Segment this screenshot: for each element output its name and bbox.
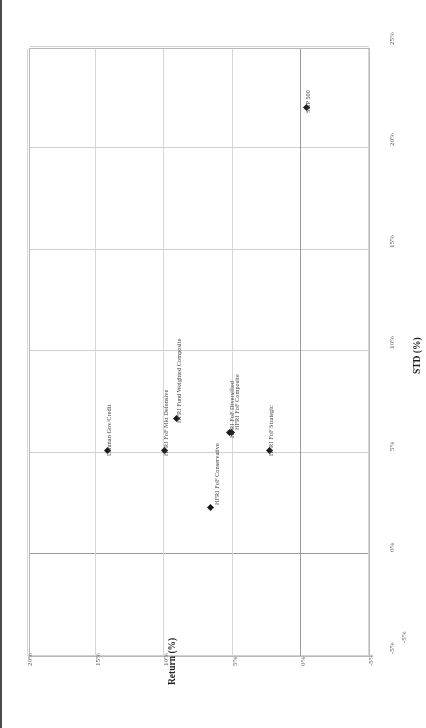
data-point-label: HFRI FoF Composite: [234, 374, 240, 430]
std-tick-label: 0%: [388, 543, 396, 552]
data-point-label: HFRI FoF Conservative: [214, 443, 220, 505]
gridline-return: [368, 49, 369, 656]
return-tick-label: -5%: [367, 654, 375, 666]
return-tick-label: 0%: [299, 657, 307, 666]
gridline-std: [30, 655, 369, 656]
std-tick-label: 10%: [388, 337, 396, 350]
return-tick-label: 5%: [231, 657, 239, 666]
std-tick-label-corner: -5%: [400, 631, 408, 643]
return-tick-label: 20%: [26, 653, 34, 666]
return-axis-title: Return (%): [168, 638, 178, 685]
gridline-std: [30, 452, 369, 453]
std-tick-label: 5%: [388, 442, 396, 451]
std-tick-label: 25%: [388, 32, 396, 45]
gridline-std: [30, 351, 369, 352]
data-point-label: HFRI FoF Mkt Defensive: [163, 390, 169, 456]
plot-area: [29, 48, 370, 657]
data-point-marker: [207, 504, 214, 511]
data-point-label: S&P 500: [305, 90, 311, 113]
return-tick-label: 15%: [94, 653, 102, 666]
std-tick-label: 15%: [388, 235, 396, 248]
data-point-label: HFRI Fund Weighted Composite: [176, 339, 182, 424]
data-point-label: HFRI FoF Strategic: [268, 405, 274, 456]
gridline-std: [30, 249, 369, 250]
gridline-return: [300, 49, 301, 656]
data-point-label: Lehman Gov/Credit: [106, 405, 112, 456]
gridline-return: [27, 49, 28, 656]
gridline-std: [30, 554, 369, 555]
gridline-return: [232, 49, 233, 656]
gridline-return: [163, 49, 164, 656]
scatter-chart-figure: S&P 500Lehman Gov/CreditHFRI FoF Mkt Def…: [0, 0, 426, 728]
std-tick-label: -5%: [388, 642, 396, 654]
gridline-std: [30, 46, 369, 47]
std-axis-title: STD (%): [412, 338, 422, 375]
std-tick-label: 20%: [388, 134, 396, 147]
gridline-std: [30, 148, 369, 149]
gridline-return: [95, 49, 96, 656]
